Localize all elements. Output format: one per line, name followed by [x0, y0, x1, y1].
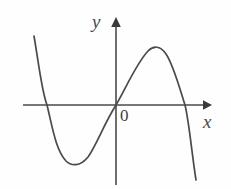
- x-axis-label: x: [203, 112, 211, 131]
- cubic-function-graph: y x 0: [0, 0, 231, 189]
- y-axis-label: y: [92, 12, 100, 31]
- graph-canvas: [0, 0, 231, 189]
- y-axis-arrowhead: [111, 17, 121, 27]
- x-axis-arrowhead: [203, 100, 212, 110]
- origin-label: 0: [120, 107, 129, 124]
- cubic-curve: [34, 36, 196, 180]
